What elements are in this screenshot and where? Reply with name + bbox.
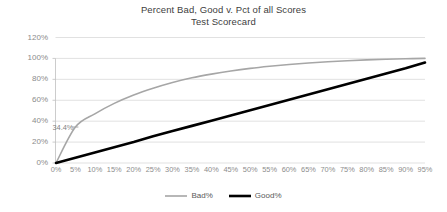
legend-label: Bad% xyxy=(191,191,212,200)
chart-legend: Bad%Good% xyxy=(0,191,447,200)
chart-container: Percent Bad, Good v. Pct of all Scores T… xyxy=(0,0,447,212)
y-axis-tick-label: 60% xyxy=(14,96,48,104)
x-axis-tick-label: 95% xyxy=(414,166,436,174)
data-label: 34.4% xyxy=(52,124,73,132)
legend-label: Good% xyxy=(255,191,282,200)
y-axis-tick-label: 0% xyxy=(14,159,48,167)
plot-svg xyxy=(0,0,447,212)
series-line-good xyxy=(56,63,425,163)
y-axis-tick-label: 120% xyxy=(14,34,48,42)
y-axis-tick-label: 100% xyxy=(14,54,48,62)
y-axis-tick-label: 80% xyxy=(14,75,48,83)
y-axis-tick-label: 40% xyxy=(14,117,48,125)
legend-item-bad[interactable]: Bad% xyxy=(165,191,212,200)
legend-swatch-icon xyxy=(165,192,187,200)
plot-area xyxy=(0,0,447,212)
y-axis-tick-label: 20% xyxy=(14,138,48,146)
legend-item-good[interactable]: Good% xyxy=(229,191,282,200)
legend-swatch-icon xyxy=(229,192,251,200)
